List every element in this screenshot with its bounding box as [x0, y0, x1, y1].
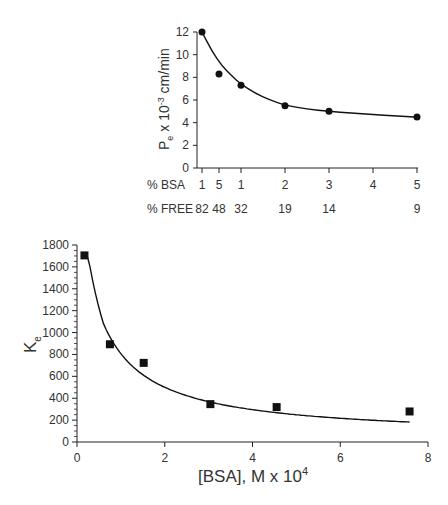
- data-point: [414, 114, 421, 121]
- bsa-tick-label: 1: [238, 178, 245, 192]
- data-point: [406, 407, 414, 415]
- bottom-data-points: [80, 251, 413, 415]
- data-point: [326, 108, 333, 115]
- y-tick-label: 6: [182, 93, 189, 107]
- bsa-tick-label: 5: [216, 178, 223, 192]
- x-tick-label: 2: [161, 451, 168, 465]
- y-tick-label: 1000: [42, 326, 69, 340]
- bsa-tick-label: 5: [414, 178, 421, 192]
- top-x-ticks: 151234582483219149: [195, 168, 420, 216]
- bottom-x-ticks: 02468: [74, 442, 432, 465]
- bsa-tick-label: 3: [326, 178, 333, 192]
- data-point: [273, 403, 281, 411]
- data-point: [216, 70, 223, 77]
- y-tick-label: 1200: [42, 304, 69, 318]
- y-tick-label: 0: [182, 161, 189, 175]
- top-fit-curve: [202, 32, 417, 117]
- data-point: [140, 359, 148, 367]
- x-tick-label: 8: [425, 451, 432, 465]
- svg-text:Pe x 10-3 cm/min: Pe x 10-3 cm/min: [156, 48, 175, 150]
- bsa-tick-label: 1: [199, 178, 206, 192]
- top-y-ticks: 024681012: [176, 25, 197, 175]
- bottom-y-axis-label: Ke: [21, 336, 43, 353]
- top-chart: 024681012 151234582483219149 % BSA % FRE…: [147, 25, 421, 216]
- bottom-y-ticks: 020040060080010001200140016001800: [42, 238, 77, 449]
- y-tick-label: 10: [176, 48, 190, 62]
- free-tick-label: 14: [322, 202, 336, 216]
- x-tick-label: 6: [337, 451, 344, 465]
- top-data-points: [199, 29, 421, 121]
- free-tick-label: 9: [414, 202, 421, 216]
- y-tick-label: 600: [49, 369, 69, 383]
- free-tick-label: 48: [212, 202, 226, 216]
- data-point: [238, 82, 245, 89]
- y-tick-label: 800: [49, 347, 69, 361]
- bottom-fit-curve: [85, 256, 410, 422]
- x-tick-label: 0: [74, 451, 81, 465]
- y-tick-label: 400: [49, 391, 69, 405]
- figure: 024681012 151234582483219149 % BSA % FRE…: [0, 0, 448, 505]
- svg-text:Ke: Ke: [21, 336, 43, 353]
- y-tick-label: 1400: [42, 282, 69, 296]
- y-tick-label: 1600: [42, 260, 69, 274]
- bsa-tick-label: 4: [370, 178, 377, 192]
- y-tick-label: 2: [182, 138, 189, 152]
- data-point: [206, 400, 214, 408]
- data-point: [80, 251, 88, 259]
- free-row-label: % FREE: [147, 202, 193, 216]
- y-tick-label: 1800: [42, 238, 69, 252]
- top-y-axis-label: Pe x 10-3 cm/min: [156, 48, 175, 150]
- x-tick-label: 4: [249, 451, 256, 465]
- bottom-chart: 020040060080010001200140016001800 02468 …: [21, 238, 432, 486]
- y-tick-label: 0: [62, 435, 69, 449]
- data-point: [199, 29, 206, 36]
- bottom-x-axis-label: [BSA], M x 104: [198, 465, 308, 486]
- free-tick-label: 82: [195, 202, 209, 216]
- y-tick-label: 8: [182, 70, 189, 84]
- y-tick-label: 12: [176, 25, 190, 39]
- y-tick-label: 4: [182, 116, 189, 130]
- y-tick-label: 200: [49, 413, 69, 427]
- bsa-tick-label: 2: [282, 178, 289, 192]
- free-tick-label: 19: [278, 202, 292, 216]
- data-point: [282, 102, 289, 109]
- bsa-row-label: % BSA: [147, 178, 185, 192]
- data-point: [106, 340, 114, 348]
- free-tick-label: 32: [234, 202, 248, 216]
